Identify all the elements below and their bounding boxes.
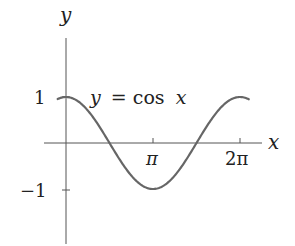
equation-lhs: y — [89, 86, 101, 108]
equation-var: x — [176, 86, 187, 108]
curve-equation-label: y = cos x — [89, 86, 187, 108]
x-tick-label-2pi: 2π — [225, 148, 248, 169]
y-tick-label-one: 1 — [34, 87, 45, 108]
equation-eq: = cos — [111, 86, 165, 108]
x-tick-label-pi: π — [145, 148, 159, 169]
y-axis-label: y — [59, 3, 72, 27]
cosine-plot: y x 1 −1 π 2π y = cos x — [0, 0, 295, 246]
y-tick-label-minus-one: −1 — [20, 180, 47, 201]
x-axis-label: x — [268, 130, 279, 154]
svg-text:y = cos x: y = cos x — [89, 86, 187, 108]
